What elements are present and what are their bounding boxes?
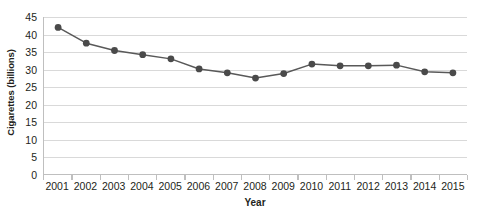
data-point — [196, 66, 203, 73]
x-axis-tick-mark — [241, 175, 242, 180]
y-axis-tick-labels: 454035302520151050 — [18, 0, 40, 185]
data-point — [309, 61, 316, 68]
x-axis-tick-mark — [467, 175, 468, 180]
x-axis-tick-label: 2015 — [441, 180, 464, 192]
x-axis-tick-mark — [382, 175, 383, 180]
data-point — [393, 62, 400, 69]
y-axis-tick-label: 45 — [25, 11, 37, 23]
x-axis-tick-label: 2004 — [130, 180, 153, 192]
plot-area — [43, 17, 467, 175]
data-point — [83, 40, 90, 47]
x-axis-tick-label: 2006 — [187, 180, 210, 192]
data-point — [111, 47, 118, 54]
x-axis-tick-mark — [100, 175, 101, 180]
data-point — [139, 51, 146, 58]
x-axis-tick-label: 2014 — [413, 180, 436, 192]
x-axis-tick-mark — [71, 175, 72, 180]
x-axis-tick-mark — [43, 175, 44, 180]
x-axis-tick-label: 2010 — [300, 180, 323, 192]
x-axis-tick-mark — [354, 175, 355, 180]
x-axis-tick-labels: 2001200220032004200520062007200820092010… — [43, 180, 467, 196]
x-axis-tick-mark — [410, 175, 411, 180]
data-point — [337, 62, 344, 69]
y-axis-tick-label: 5 — [31, 151, 37, 163]
x-axis-tick-label: 2008 — [243, 180, 266, 192]
x-axis-tick-label: 2011 — [329, 180, 352, 192]
x-axis-tick-mark — [213, 175, 214, 180]
data-point — [280, 70, 287, 77]
y-axis-tick-label: 40 — [25, 29, 37, 41]
data-point — [224, 69, 231, 76]
x-axis-tick-label: 2009 — [272, 180, 295, 192]
x-axis-tick-mark — [439, 175, 440, 180]
x-axis-tick-label: 2013 — [385, 180, 408, 192]
data-point — [365, 62, 372, 69]
x-axis-title: Year — [43, 197, 467, 208]
data-point — [450, 69, 457, 76]
y-axis-tick-label: 30 — [25, 64, 37, 76]
y-axis-tick-label: 25 — [25, 81, 37, 93]
y-axis-tick-label: 35 — [25, 46, 37, 58]
chart-figure: Cigarettes (billions) 454035302520151050… — [0, 0, 494, 223]
data-point — [168, 55, 175, 62]
data-point — [421, 68, 428, 75]
y-axis-tick-label: 20 — [25, 99, 37, 111]
x-axis-tick-label: 2005 — [159, 180, 182, 192]
y-axis-title: Cigarettes (billions) — [0, 0, 20, 185]
y-axis-tick-label: 0 — [31, 169, 37, 181]
x-axis-tick-label: 2007 — [215, 180, 238, 192]
x-axis-tick-label: 2002 — [74, 180, 97, 192]
x-axis-tick-mark — [184, 175, 185, 180]
x-axis-tick-label: 2012 — [356, 180, 379, 192]
x-axis-tick-mark — [326, 175, 327, 180]
x-axis-tick-mark — [156, 175, 157, 180]
x-axis-tick-mark — [128, 175, 129, 180]
x-axis-tick-label: 2001 — [45, 180, 68, 192]
data-point — [252, 75, 259, 82]
line-series-svg — [44, 17, 467, 174]
x-axis-tick-mark — [297, 175, 298, 180]
y-axis-tick-label: 10 — [25, 134, 37, 146]
data-point — [55, 24, 62, 31]
series-line — [58, 27, 453, 78]
x-axis-tick-label: 2003 — [102, 180, 125, 192]
y-axis-tick-label: 15 — [25, 116, 37, 128]
x-axis-tick-mark — [269, 175, 270, 180]
y-axis-title-text: Cigarettes (billions) — [5, 49, 16, 136]
